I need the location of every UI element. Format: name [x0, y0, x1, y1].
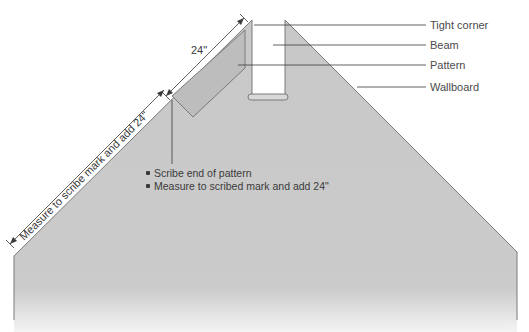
note-scribe-text: Scribe end of pattern: [154, 167, 251, 179]
label-pattern: Pattern: [430, 59, 465, 72]
beam-ledge: [248, 94, 288, 100]
note-measure: Measure to scribed mark and add 24": [146, 180, 329, 193]
bullet-icon: [146, 171, 150, 175]
label-beam: Beam: [430, 39, 459, 52]
dim-24-label: 24": [191, 44, 207, 56]
bullet-icon: [146, 184, 150, 188]
note-scribe: Scribe end of pattern: [146, 167, 251, 180]
note-measure-text: Measure to scribed mark and add 24": [154, 180, 329, 192]
label-wallboard: Wallboard: [430, 81, 479, 94]
label-tight-corner: Tight corner: [430, 19, 488, 32]
